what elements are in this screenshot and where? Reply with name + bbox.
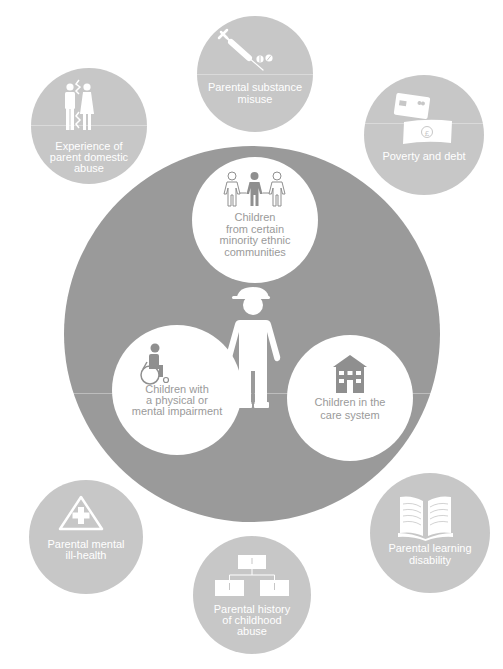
factor-label: Parental history of childhood abuse bbox=[193, 604, 311, 637]
factor-label: Poverty and debt bbox=[364, 151, 484, 163]
syringe-pills-icon bbox=[197, 16, 313, 132]
warning-cross-icon bbox=[29, 480, 143, 594]
factor-label: Parental mental ill-health bbox=[29, 539, 143, 561]
svg-text:£: £ bbox=[425, 129, 430, 138]
card-and-banknote-icon: £ bbox=[364, 75, 484, 195]
factor-parental-learning-disability: Parental learning disability bbox=[370, 473, 490, 593]
factor-minority-ethnic-children: Children from certain minority ethnic co… bbox=[192, 157, 318, 283]
factor-domestic-abuse: Experience of parent domestic abuse bbox=[31, 68, 147, 184]
factor-parental-mental-ill-health: Parental mental ill-health bbox=[29, 480, 143, 594]
factor-care-system-children: Children in the care system bbox=[287, 335, 413, 461]
open-book-icon bbox=[370, 473, 490, 593]
factor-label: Experience of parent domestic abuse bbox=[31, 141, 147, 174]
factor-poverty-and-debt: £ Poverty and debt bbox=[364, 75, 484, 195]
child-with-cap-icon bbox=[217, 286, 287, 414]
factor-parental-substance-misuse: Parental substance misuse bbox=[197, 16, 313, 132]
factor-label: Parental learning disability bbox=[370, 542, 490, 566]
factor-label: Children in the care system bbox=[287, 396, 413, 421]
factor-parental-history-of-abuse: Parental history of childhood abuse bbox=[193, 536, 311, 654]
factor-label: Parental substance misuse bbox=[197, 82, 313, 105]
factor-label: Children from certain minority ethnic co… bbox=[192, 212, 318, 258]
